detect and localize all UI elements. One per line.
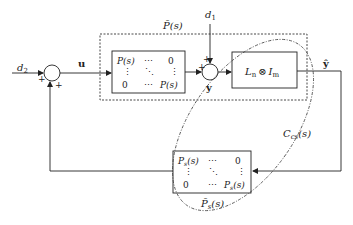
- sensor-group-label: P̄s(s): [200, 198, 224, 211]
- svg-text:⋯: ⋯: [208, 156, 217, 166]
- svg-text:⋮: ⋮: [237, 167, 246, 177]
- u-label: u: [78, 58, 85, 69]
- svg-text:⋱: ⋱: [209, 167, 218, 177]
- svg-text:⋮: ⋮: [170, 67, 179, 77]
- svg-text:⋯: ⋯: [208, 180, 217, 190]
- svg-text:P(s): P(s): [116, 56, 135, 66]
- svg-text:0: 0: [183, 180, 189, 190]
- svg-text:⋮: ⋮: [184, 167, 193, 177]
- y-hat-label: ŷ: [322, 58, 330, 69]
- svg-text:0: 0: [168, 56, 174, 66]
- input-sum-sign-bottom: +: [55, 80, 63, 90]
- svg-text:⋱: ⋱: [145, 67, 154, 77]
- closed-loop-label: Ccs(s): [283, 128, 311, 141]
- closed-loop-region: [144, 15, 342, 225]
- input-summing-junction: [44, 65, 60, 81]
- d1-label: d1: [205, 9, 216, 22]
- svg-text:0: 0: [122, 80, 128, 90]
- svg-text:0: 0: [235, 156, 241, 166]
- block-diagram: P̄(s) d2 + + u P(s) ⋯ 0 ⋮ ⋱ ⋮ 0 ⋯ P(s) d…: [0, 0, 353, 225]
- svg-text:⋯: ⋯: [144, 56, 153, 66]
- plant-matrix: P(s) ⋯ 0 ⋮ ⋱ ⋮ 0 ⋯ P(s): [116, 56, 179, 90]
- svg-text:P(s): P(s): [159, 80, 178, 90]
- input-sum-sign-left: +: [38, 74, 46, 84]
- svg-text:⋮: ⋮: [123, 67, 132, 77]
- feedback-path-left: [50, 82, 173, 171]
- plant-group-label: P̄(s): [162, 20, 183, 31]
- y-label: y: [205, 82, 213, 93]
- svg-text:Ps(s): Ps(s): [223, 180, 245, 191]
- output-sum-sign-top: +: [203, 54, 211, 64]
- svg-text:⋯: ⋯: [144, 80, 153, 90]
- svg-text:Ps(s): Ps(s): [177, 156, 199, 167]
